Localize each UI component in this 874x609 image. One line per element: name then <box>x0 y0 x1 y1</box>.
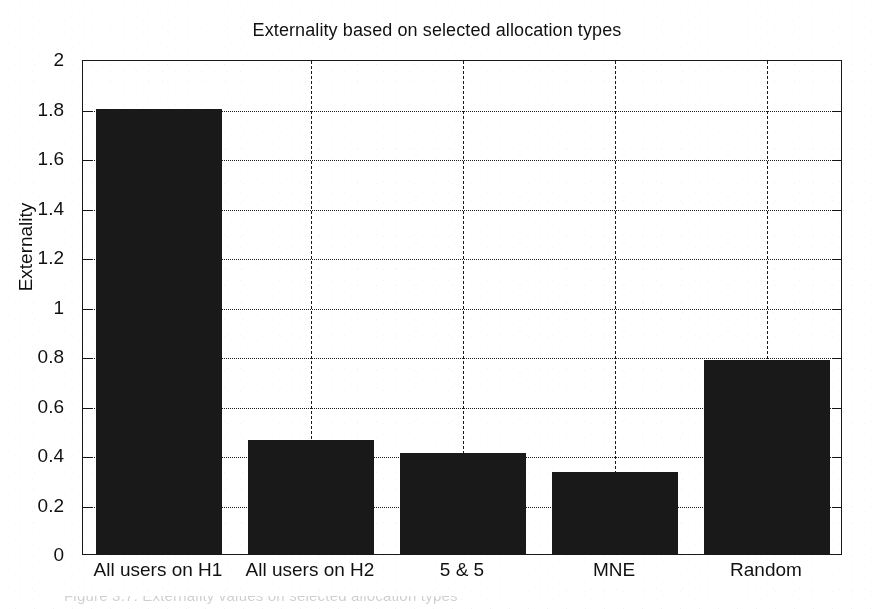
y-tick-mark <box>832 160 841 161</box>
y-tick-mark <box>832 259 841 260</box>
x-tick-label: MNE <box>593 559 635 581</box>
bar <box>96 109 221 555</box>
x-axis-tick-labels: All users on H1All users on H25 & 5MNERa… <box>82 559 842 591</box>
caption-text: Figure 3.7: Externality values on select… <box>64 596 534 604</box>
y-tick-label: 0 <box>53 544 64 566</box>
y-tick-mark <box>83 507 92 508</box>
bar <box>704 360 829 554</box>
y-tick-mark <box>83 457 92 458</box>
y-axis-title: Externality <box>15 137 37 357</box>
y-tick-mark <box>83 408 92 409</box>
bar <box>400 453 525 554</box>
bar <box>248 440 373 554</box>
y-tick-label: 0.8 <box>38 346 64 368</box>
y-tick-mark <box>832 111 841 112</box>
y-tick-mark <box>83 160 92 161</box>
y-tick-mark <box>832 457 841 458</box>
y-tick-label: 0.2 <box>38 495 64 517</box>
y-tick-mark <box>83 111 92 112</box>
x-tick-label: All users on H1 <box>94 559 223 581</box>
y-tick-mark <box>832 210 841 211</box>
y-tick-label: 1 <box>53 297 64 319</box>
y-tick-label: 1.8 <box>38 99 64 121</box>
y-tick-mark <box>832 309 841 310</box>
y-tick-mark <box>83 358 92 359</box>
x-tick-label: All users on H2 <box>246 559 375 581</box>
y-tick-label: 1.6 <box>38 148 64 170</box>
bar <box>552 472 677 554</box>
y-tick-mark <box>83 210 92 211</box>
y-tick-mark <box>83 309 92 310</box>
y-tick-label: 1.4 <box>38 198 64 220</box>
x-tick-label: 5 & 5 <box>440 559 484 581</box>
caption-remnant: Figure 3.7: Externality values on select… <box>64 596 534 607</box>
y-tick-label: 0.6 <box>38 396 64 418</box>
y-tick-mark <box>83 259 92 260</box>
chart-title: Externality based on selected allocation… <box>0 20 874 41</box>
y-tick-mark <box>832 507 841 508</box>
y-tick-mark <box>832 408 841 409</box>
plot-area <box>82 60 842 555</box>
y-tick-label: 2 <box>53 49 64 71</box>
y-tick-label: 1.2 <box>38 247 64 269</box>
y-tick-label: 0.4 <box>38 445 64 467</box>
figure-container: Externality based on selected allocation… <box>0 0 874 609</box>
x-tick-label: Random <box>730 559 802 581</box>
y-tick-mark <box>832 358 841 359</box>
